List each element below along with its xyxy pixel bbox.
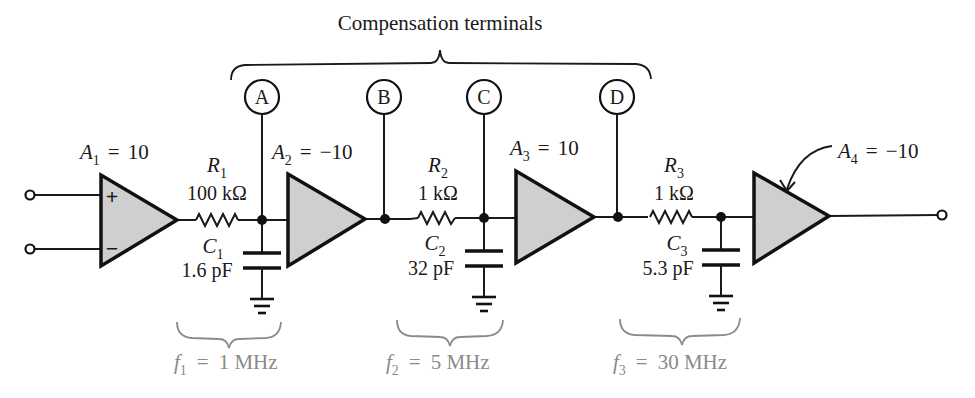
resistor-r1 [196,214,238,226]
pole-brace-2 [397,320,503,346]
c1-value: 1.6 pF [181,259,232,282]
pole-brace-1 [177,322,281,348]
capacitor-c1 [243,221,281,299]
terminal-c-label: C [477,86,490,108]
amp2-label: A2=−10 [270,140,353,168]
top-brace [231,50,651,80]
junction-node-a [257,215,267,225]
pole-f1-label: f1=1 MHz [174,350,278,378]
terminal-b[interactable]: B [367,80,401,219]
resistor-r2 [418,212,455,224]
output-terminal[interactable] [938,211,947,220]
input-terminal-plus[interactable] [26,191,35,200]
circuit-diagram: Compensation terminals A B C D + − A1=10 [0,0,975,398]
amp1-label: A1=10 [78,140,149,168]
amp1-minus-sign: − [106,236,119,261]
ground-icon [472,297,496,311]
pole-brace-3 [620,318,740,345]
c2-value: 32 pF [408,257,454,280]
junction-node-b [380,214,390,224]
ground-icon [250,299,274,313]
c2-name: C2 [424,231,445,259]
junction-node-c [479,213,489,223]
terminal-b-label: B [377,86,390,108]
r1-name: R1 [206,153,227,181]
capacitor-c2 [465,218,503,297]
terminal-c[interactable]: C [467,80,501,218]
amp3-label: A3=10 [508,136,579,164]
c3-value: 5.3 pF [642,257,693,280]
pole-f3-label: f3=30 MHz [613,350,727,378]
terminal-d[interactable]: D [600,80,634,217]
r3-value: 1 kΩ [654,182,694,204]
r2-value: 1 kΩ [418,182,458,204]
amplifier-a1: + − [101,175,177,266]
c1-name: C1 [202,234,223,262]
amplifier-a3 [516,171,594,263]
capacitor-c3 [702,217,740,296]
resistor-r3 [650,211,692,223]
amp4-pointer-arrow-icon [780,146,832,191]
amp4-label: A4=−10 [836,139,919,167]
r2-name: R2 [427,153,448,181]
diagram-title: Compensation terminals [338,11,543,35]
amplifier-a2 [288,174,365,266]
r3-name: R3 [663,153,684,181]
junction-node-c3 [716,212,726,222]
r1-value: 100 kΩ [187,182,247,204]
amp1-plus-sign: + [106,184,119,209]
pole-f2-label: f2=5 MHz [386,350,490,378]
ground-icon [709,296,733,310]
junction-node-d [613,212,623,222]
terminal-d-label: D [610,86,624,108]
input-terminal-minus[interactable] [26,245,35,254]
c3-name: C3 [666,231,687,259]
terminal-a-label: A [255,86,270,108]
